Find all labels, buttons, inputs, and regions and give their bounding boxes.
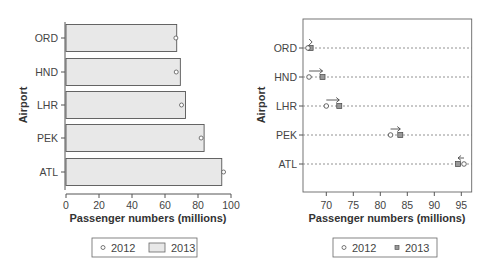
- point-2012-atl: [462, 162, 467, 167]
- arrow-right-icon: [309, 69, 323, 74]
- right-y-axis-title: Airport: [255, 86, 267, 123]
- right-chart: Airport ORDHNDLHRPEKATL 707580859095 Pas…: [255, 19, 472, 257]
- point-2013-lhr: [337, 104, 342, 109]
- point-2013-atl: [456, 162, 461, 167]
- y-label-ord: ORD: [274, 42, 298, 54]
- arrow-right-icon: [309, 39, 312, 45]
- point-2012-hnd: [307, 75, 312, 80]
- x-tick-label: 95: [455, 199, 467, 211]
- left-legend-2012: 2012: [111, 242, 135, 254]
- point-2012-hnd: [174, 70, 178, 74]
- filled-square-icon: [395, 246, 399, 250]
- point-2012-pek: [388, 133, 393, 138]
- x-tick-label: 90: [428, 199, 440, 211]
- arrow-right-icon: [391, 127, 401, 132]
- left-x-axis-title: Passenger numbers (millions): [69, 212, 226, 224]
- y-label-hnd: HND: [35, 66, 58, 78]
- right-x-ticks: 707580859095: [320, 192, 467, 211]
- left-y-categories: ORDHNDLHRPEKATL: [35, 32, 65, 178]
- point-2012-ord: [306, 46, 311, 51]
- point-2013-pek: [398, 133, 403, 138]
- x-tick-label: 100: [222, 199, 240, 211]
- x-tick-label: 60: [159, 199, 171, 211]
- bar-swatch-icon: [149, 243, 165, 252]
- right-y-categories: ORDHNDLHRPEKATL: [274, 42, 303, 170]
- left-legend: 2012 2013: [92, 238, 197, 257]
- y-label-atl: ATL: [40, 166, 59, 178]
- point-2012-atl: [222, 170, 226, 174]
- right-legend-2012: 2012: [352, 242, 376, 254]
- bar-hnd: [66, 59, 180, 86]
- x-tick-label: 80: [192, 199, 204, 211]
- point-2012-lhr: [324, 104, 329, 109]
- open-circle-icon: [101, 246, 105, 250]
- y-label-hnd: HND: [274, 71, 297, 83]
- arrow-right-icon: [326, 98, 339, 103]
- x-tick-label: 20: [93, 199, 105, 211]
- right-points: [303, 39, 472, 167]
- left-chart: Airport ORDHNDLHRPEKATL 020406080100 Pas…: [17, 22, 240, 257]
- x-tick-label: 0: [63, 199, 69, 211]
- x-tick-label: 80: [374, 199, 386, 211]
- left-x-ticks: 020406080100: [63, 194, 240, 211]
- point-2012-pek: [199, 136, 203, 140]
- y-label-atl: ATL: [279, 158, 298, 170]
- left-legend-2013: 2013: [171, 242, 195, 254]
- right-legend-2013: 2013: [405, 242, 429, 254]
- y-label-pek: PEK: [276, 129, 297, 141]
- right-x-axis-title: Passenger numbers (millions): [308, 212, 465, 224]
- x-tick-label: 70: [320, 199, 332, 211]
- point-2013-hnd: [320, 75, 325, 80]
- bar-lhr: [66, 92, 185, 119]
- point-2012-lhr: [180, 103, 184, 107]
- open-circle-icon: [342, 246, 346, 250]
- x-tick-label: 85: [401, 199, 413, 211]
- figure: Airport ORDHNDLHRPEKATL 020406080100 Pas…: [0, 0, 488, 269]
- y-label-pek: PEK: [37, 132, 58, 144]
- x-tick-label: 75: [347, 199, 359, 211]
- bar-ord: [66, 25, 177, 52]
- y-label-lhr: LHR: [37, 99, 58, 111]
- x-tick-label: 40: [126, 199, 138, 211]
- arrow-left-icon: [458, 156, 464, 161]
- y-label-ord: ORD: [35, 32, 59, 44]
- point-2012-ord: [174, 36, 178, 40]
- right-legend: 2012 2013: [333, 238, 437, 257]
- left-y-axis-title: Airport: [17, 86, 29, 123]
- bar-pek: [66, 125, 204, 152]
- y-label-lhr: LHR: [276, 100, 297, 112]
- bar-atl: [66, 159, 222, 186]
- left-bars: [66, 25, 226, 186]
